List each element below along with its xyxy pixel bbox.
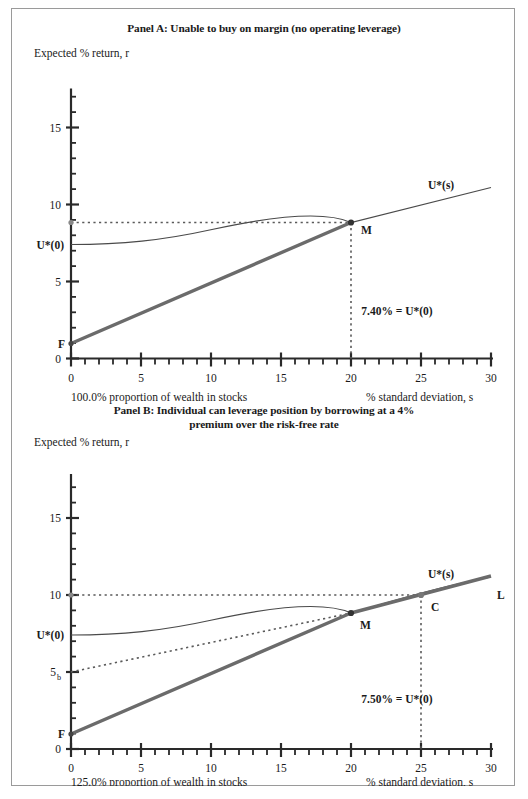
panel-b-xtick-15: 15 bbox=[275, 762, 287, 774]
panel-b-label-l: L bbox=[497, 589, 505, 601]
panel-b-label-f: F bbox=[58, 728, 65, 740]
panel-b-borrow-subscript: b bbox=[57, 673, 61, 682]
panel-a-label-u0: U*(0) bbox=[37, 239, 65, 252]
panel-b-xtick-20: 20 bbox=[345, 762, 357, 774]
panel-b-ytick-0: 0 bbox=[55, 743, 61, 755]
figure-page: Panel A: Unable to buy on margin (no ope… bbox=[11, 8, 515, 786]
panel-b: Panel B: Individual can leverage positio… bbox=[12, 390, 516, 786]
panel-b-label-u0: U*(0) bbox=[37, 629, 65, 642]
panel-b-utility-curve bbox=[71, 577, 491, 635]
panel-a-plot: 0 5 10 15 bbox=[12, 9, 516, 405]
panel-a-xtick-30: 30 bbox=[485, 372, 497, 384]
panel-a-label-m: M bbox=[361, 224, 372, 236]
panel-a-xtick-10: 10 bbox=[205, 372, 217, 384]
panel-b-ytick-5-borrow: 5 bbox=[50, 666, 56, 678]
panel-b-point-f bbox=[68, 731, 73, 736]
panel-a-xtick-0: 0 bbox=[68, 372, 74, 384]
panel-b-borrowing-rate-line bbox=[71, 613, 351, 672]
panel-b-xtick-25: 25 bbox=[415, 762, 427, 774]
panel-a-ytick-5: 5 bbox=[55, 276, 61, 288]
panel-b-annotation: 7.50% = U*(0) bbox=[361, 693, 433, 706]
panel-a: Panel A: Unable to buy on margin (no ope… bbox=[12, 9, 516, 390]
panel-a-xtick-5: 5 bbox=[138, 372, 144, 384]
panel-b-label-us: U*(s) bbox=[428, 568, 454, 581]
panel-b-x-label-right: % standard deviation, s bbox=[366, 776, 474, 786]
panel-a-xtick-25: 25 bbox=[415, 372, 427, 384]
panel-a-xtick-20: 20 bbox=[345, 372, 357, 384]
panel-a-point-f bbox=[68, 341, 73, 346]
panel-b-point-u0-level bbox=[68, 592, 73, 597]
panel-b-xtick-0: 0 bbox=[68, 762, 74, 774]
panel-a-xtick-15: 15 bbox=[275, 372, 287, 384]
panel-b-y-major-ticks bbox=[66, 518, 79, 749]
panel-a-label-us: U*(s) bbox=[428, 179, 454, 192]
panel-b-point-c bbox=[418, 592, 424, 598]
panel-a-annotation: 7.40% = U*(0) bbox=[361, 305, 433, 318]
panel-a-point-u0-level bbox=[68, 220, 73, 225]
panel-a-utility-curve bbox=[71, 188, 491, 245]
panel-a-ytick-15: 15 bbox=[50, 122, 62, 134]
panel-a-ytick-10: 10 bbox=[50, 199, 62, 211]
panel-a-label-f: F bbox=[58, 338, 65, 350]
panel-b-x-label-left: 125.0% proportion of wealth in stocks bbox=[71, 776, 248, 786]
panel-b-xtick-5: 5 bbox=[138, 762, 144, 774]
panel-b-label-c: C bbox=[431, 601, 439, 613]
panel-a-y-major-ticks bbox=[66, 128, 79, 359]
panel-a-ytick-0: 0 bbox=[55, 353, 61, 365]
panel-b-label-m: M bbox=[360, 619, 371, 631]
panel-a-capital-allocation-line bbox=[71, 223, 351, 344]
panel-b-ytick-15: 15 bbox=[50, 512, 62, 524]
panel-b-capital-allocation-line bbox=[71, 576, 491, 734]
panel-b-plot: 0 10 15 5 b bbox=[12, 390, 516, 786]
panel-b-xtick-30: 30 bbox=[485, 762, 497, 774]
panel-b-xtick-10: 10 bbox=[205, 762, 217, 774]
panel-b-ytick-10: 10 bbox=[50, 589, 62, 601]
panel-b-point-m bbox=[348, 610, 354, 616]
panel-a-point-m bbox=[348, 219, 354, 225]
